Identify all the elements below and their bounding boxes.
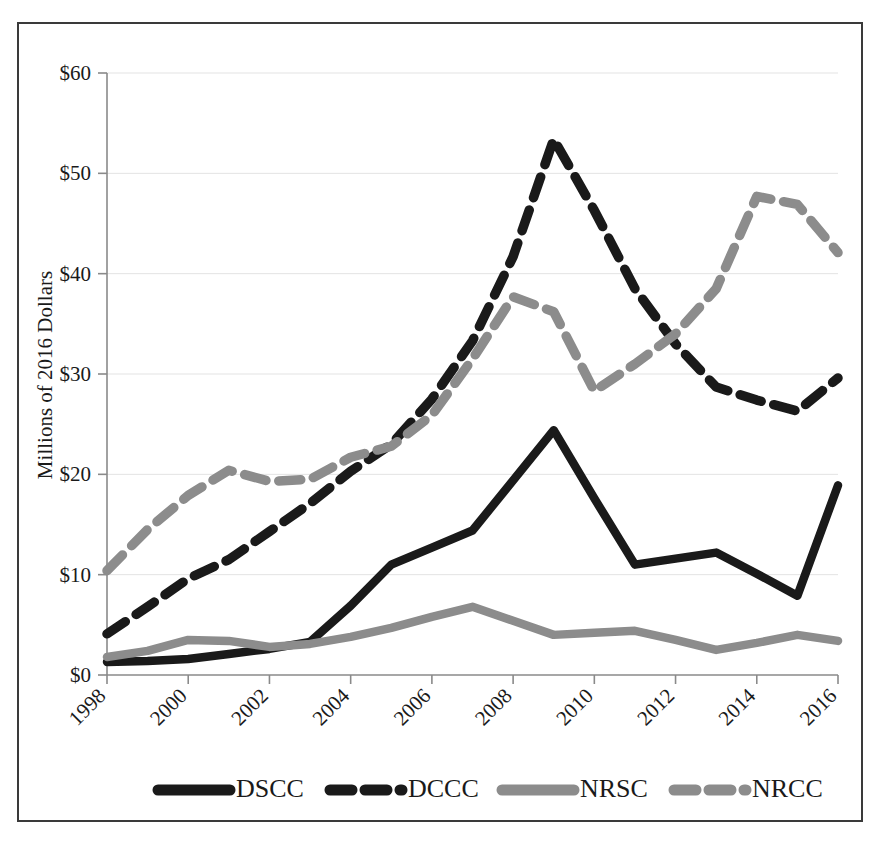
y-tick-label: $50 <box>60 161 92 185</box>
y-tick-label: $30 <box>60 362 92 386</box>
x-tick-label: 2014 <box>714 683 761 730</box>
series-line-nrsc <box>107 607 838 657</box>
data-series-group <box>107 139 838 662</box>
series-line-nrcc <box>107 196 838 570</box>
x-tick-label: 2004 <box>308 683 355 730</box>
legend-label-nrcc: NRCC <box>752 774 823 803</box>
y-tick-label: $60 <box>60 61 92 85</box>
legend-label-dccc: DCCC <box>408 774 479 803</box>
series-line-dscc <box>107 430 838 662</box>
x-tick-label: 2000 <box>145 684 192 731</box>
x-tick-label: 2008 <box>470 684 517 731</box>
x-tick-labels: 1998200020022004200620082010201220142016 <box>64 683 842 730</box>
x-tick-label: 1998 <box>64 684 111 731</box>
axes-group <box>98 73 838 684</box>
gridlines-group <box>107 73 838 575</box>
chart-figure: $0$10$20$30$40$50$60 1998200020022004200… <box>0 0 881 846</box>
y-tick-label: $20 <box>60 462 92 486</box>
x-tick-label: 2016 <box>795 684 842 731</box>
y-tick-label: $0 <box>70 663 91 687</box>
y-tick-labels: $0$10$20$30$40$50$60 <box>60 61 92 687</box>
x-tick-label: 2012 <box>632 684 679 731</box>
x-tick-label: 2010 <box>551 684 598 731</box>
chart-legend: DSCCDCCCNRSCNRCC <box>158 774 823 803</box>
legend-label-nrsc: NRSC <box>580 774 648 803</box>
x-tick-label: 2006 <box>389 684 436 731</box>
legend-label-dscc: DSCC <box>236 774 304 803</box>
y-tick-label: $40 <box>60 262 92 286</box>
y-axis-title: Millions of 2016 Dollars <box>33 271 57 479</box>
x-tick-label: 2002 <box>226 684 273 731</box>
y-tick-label: $10 <box>60 563 92 587</box>
line-chart: $0$10$20$30$40$50$60 1998200020022004200… <box>0 0 881 846</box>
